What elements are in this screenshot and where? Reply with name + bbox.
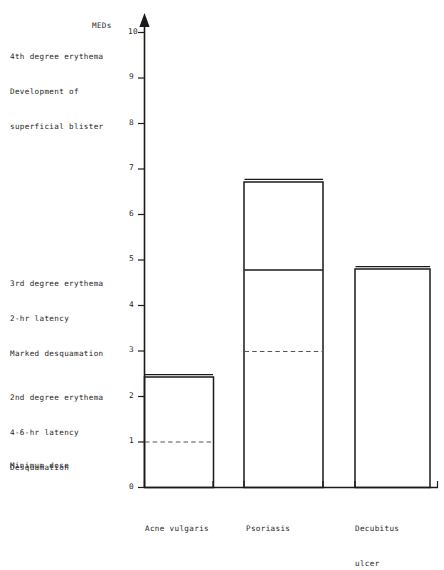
x-category-decubitus-line-1: Decubitus xyxy=(355,523,399,535)
annotation-fourth-degree-erythema: 4th degree erythema Development of super… xyxy=(10,27,104,157)
y-tick-label-8: 8 xyxy=(118,118,134,127)
x-category-label-psoriasis: Psoriasis xyxy=(246,500,290,558)
x-category-decubitus-line-2: ulcer xyxy=(355,558,399,570)
x-category-psoriasis-line-1: Psoriasis xyxy=(246,523,290,535)
x-axis xyxy=(145,481,439,488)
bar-decubitus-ulcer[interactable] xyxy=(355,267,430,488)
bar-psoriasis[interactable] xyxy=(244,179,323,487)
annotation-third-line-1: 3rd degree erythema xyxy=(10,278,104,290)
y-tick-label-1: 1 xyxy=(118,436,134,445)
annotation-fourth-line-3: superficial blister xyxy=(10,121,104,133)
y-tick-label-0: 0 xyxy=(118,482,134,491)
x-category-label-acne-vulgaris: Acne vulgaris xyxy=(145,500,209,558)
x-category-label-decubitus-ulcer: Decubitus ulcer xyxy=(355,500,399,570)
annotation-fourth-line-2: Development of xyxy=(10,86,104,98)
annotation-minimum-dose: Minimum dose xyxy=(10,436,69,495)
annotation-third-degree-erythema: 3rd degree erythema 2-hr latency Marked … xyxy=(10,254,104,384)
annotation-third-line-2: 2-hr latency xyxy=(10,313,104,325)
y-tick-label-9: 9 xyxy=(118,72,134,81)
annotation-fourth-line-1: 4th degree erythema xyxy=(10,51,104,63)
x-category-acne-line-1: Acne vulgaris xyxy=(145,523,209,535)
y-tick-label-10: 10 xyxy=(118,27,138,36)
annotation-second-line-1: 2nd degree erythema xyxy=(10,392,104,404)
y-tick-label-4: 4 xyxy=(118,300,134,309)
y-axis-ticks xyxy=(138,33,145,488)
annotation-third-line-3: Marked desquamation xyxy=(10,348,104,360)
y-tick-label-3: 3 xyxy=(118,345,134,354)
y-tick-label-2: 2 xyxy=(118,391,134,400)
y-tick-label-7: 7 xyxy=(118,163,134,172)
y-tick-label-6: 6 xyxy=(118,209,134,218)
y-tick-label-5: 5 xyxy=(118,254,134,263)
bar-acne-vulgaris[interactable] xyxy=(145,375,214,488)
annotation-minimum-line-1: Minimum dose xyxy=(10,460,69,472)
